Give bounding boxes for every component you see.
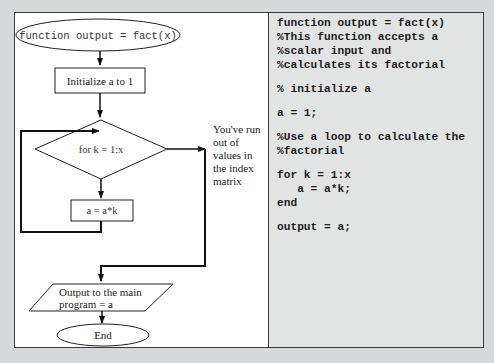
- code-line: %Use a loop to calculate the: [277, 130, 465, 144]
- code-line: % initialize a: [277, 82, 465, 96]
- code-line: end: [277, 196, 465, 210]
- code-line: %scalar input and: [277, 44, 465, 58]
- figure-frame: function output = fact(x) Initialize a t…: [14, 12, 484, 348]
- code-line: %factorial: [277, 144, 465, 158]
- init-label: Initialize a to 1: [67, 75, 133, 87]
- code-line: a = a*k;: [277, 182, 465, 196]
- code-line: %calculates its factorial: [277, 58, 465, 72]
- code-line: for k = 1:x: [277, 168, 465, 182]
- exit-note: You've run out of values in the index ma…: [213, 123, 263, 187]
- code-listing: function output = fact(x) %This function…: [277, 16, 465, 234]
- code-line: %This function accepts a: [277, 30, 465, 44]
- body-label: a = a*k: [87, 205, 119, 216]
- code-line: a = 1;: [277, 106, 465, 120]
- flowchart: function output = fact(x) Initialize a t…: [15, 13, 268, 347]
- start-label: function output = fact(x): [19, 30, 177, 42]
- code-line: output = a;: [277, 220, 465, 234]
- flowchart-panel: function output = fact(x) Initialize a t…: [15, 13, 269, 347]
- code-panel: function output = fact(x) %This function…: [269, 13, 483, 347]
- code-line: function output = fact(x): [277, 16, 465, 30]
- decision-label: for k = 1:x: [79, 144, 124, 155]
- end-label: End: [94, 329, 112, 341]
